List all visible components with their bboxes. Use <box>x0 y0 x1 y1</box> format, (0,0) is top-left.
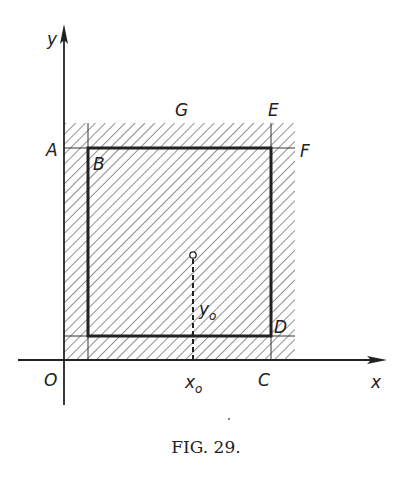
label-G: G <box>175 100 188 120</box>
label-D: D <box>274 317 287 337</box>
label-origin: O <box>44 370 57 390</box>
stray-dot <box>228 418 230 420</box>
label-x0: xo <box>184 372 202 396</box>
figure-29-diagram: y x O A B G E F D C xo yo FIG. 29. <box>0 0 412 478</box>
label-A: A <box>45 140 58 160</box>
point-x0-y0 <box>190 252 196 258</box>
figure-caption: FIG. 29. <box>171 437 240 457</box>
label-E: E <box>268 100 279 120</box>
label-F: F <box>300 141 310 161</box>
label-C: C <box>258 370 270 390</box>
label-B: B <box>93 154 105 174</box>
label-y-axis: y <box>46 29 58 49</box>
label-x-axis: x <box>370 372 382 392</box>
